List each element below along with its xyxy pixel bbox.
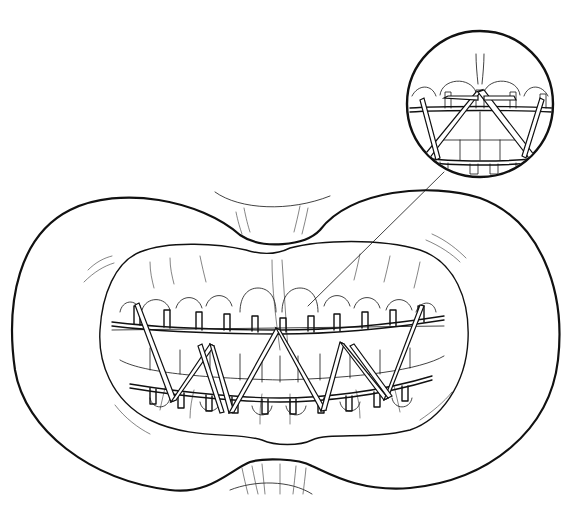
dental-fixation-drawing bbox=[0, 0, 572, 522]
philtrum-arc bbox=[215, 192, 330, 207]
inset-detail bbox=[407, 31, 553, 177]
lip-hatching bbox=[84, 206, 466, 494]
chin-arc bbox=[230, 483, 312, 494]
illustration bbox=[0, 0, 572, 522]
upper-teeth bbox=[112, 288, 444, 330]
leader-line bbox=[308, 172, 444, 306]
